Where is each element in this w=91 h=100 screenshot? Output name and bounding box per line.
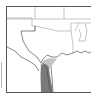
state-borders: [7, 7, 91, 53]
range-map: [6, 6, 91, 93]
left-edge-mark: [1, 62, 2, 88]
range-map-svg: [7, 7, 91, 92]
map-title-clipped: [0, 0, 91, 3]
